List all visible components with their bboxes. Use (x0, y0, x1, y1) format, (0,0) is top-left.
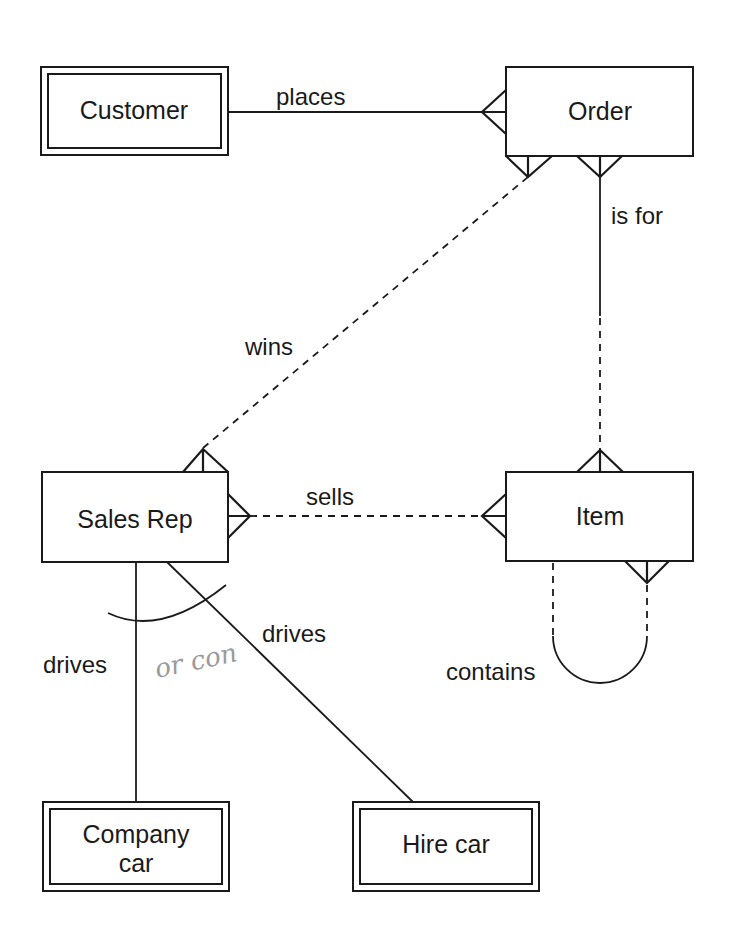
order-label: Order (568, 97, 632, 125)
entity-sales-rep[interactable]: Sales Rep (42, 472, 228, 562)
sales-rep-label: Sales Rep (77, 505, 192, 533)
crows-foot-order-wins (506, 156, 552, 177)
relationship-is-for: is for (600, 177, 663, 470)
crows-foot-item-is-for (577, 450, 623, 472)
wins-label: wins (244, 333, 293, 360)
contains-loop-arc (553, 636, 647, 683)
relationship-wins: wins (203, 177, 528, 448)
drives-hire-label: drives (262, 620, 326, 647)
entity-company-car[interactable]: Company car (43, 802, 229, 891)
entity-order[interactable]: Order (506, 67, 693, 156)
crows-foot-sales-rep-wins (183, 449, 228, 472)
contains-label: contains (446, 658, 535, 685)
relationship-places: places (228, 83, 506, 112)
sells-label: sells (306, 483, 354, 510)
drives-company-label: drives (43, 651, 107, 678)
is-for-label: is for (611, 202, 663, 229)
customer-label: Customer (80, 96, 188, 124)
er-diagram: places is for wins sells contains drives… (0, 0, 736, 942)
relationship-drives-hire-car: drives (167, 562, 413, 802)
wins-line (203, 177, 528, 448)
places-label: places (276, 83, 345, 110)
crows-foot-item-sells (482, 494, 506, 538)
crows-foot-sales-rep-sells (228, 494, 250, 538)
relationship-drives-company-car: drives (43, 562, 136, 803)
hire-car-label: Hire car (402, 830, 490, 858)
entity-customer[interactable]: Customer (41, 67, 228, 155)
company-car-label-line1: Company (83, 820, 190, 848)
item-label: Item (576, 502, 625, 530)
relationship-contains: contains (446, 563, 647, 685)
entity-item[interactable]: Item (506, 472, 693, 561)
handwritten-annotation: or con (152, 637, 240, 684)
crows-foot-order-is-for (577, 156, 622, 177)
crows-foot-order-places (482, 90, 506, 134)
drives-hire-line (167, 562, 413, 802)
relationship-sells: sells (250, 483, 482, 516)
crows-foot-item-contains (625, 561, 669, 583)
entity-hire-car[interactable]: Hire car (353, 802, 539, 891)
company-car-label-line2: car (119, 849, 154, 877)
